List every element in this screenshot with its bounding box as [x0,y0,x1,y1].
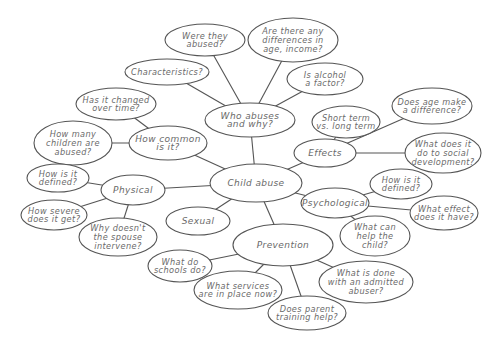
topic-node-social-development: What does itdo to socialdevelopment? [405,133,481,173]
node-label: abused? [186,39,223,49]
topic-node-psych-defined: How is itdefined? [370,169,432,199]
node-label: are in place now? [199,289,278,299]
topic-node-admitted-abuser: What is donewith an admittedabuser? [319,261,413,303]
node-label: Psychological [302,198,368,208]
node-label: a difference? [403,105,462,115]
topic-node-what-effect: What effectdoes it have? [410,196,478,230]
node-label: is it? [156,142,179,152]
node-label: defined? [39,177,78,187]
node-label: does it get? [28,214,81,224]
topic-node-sexual: Sexual [166,207,230,235]
topic-node-alcohol: Is alcohola factor? [287,63,363,95]
node-label: Characteristics? [131,67,203,77]
topic-node-parent-training: Does parenttraining help? [268,296,346,330]
topic-node-psychological: Psychological [301,188,369,218]
topic-node-age-difference: Does age makea difference? [392,88,472,124]
topic-node-spouse-intervene: Why doesn'tthe spouseintervene? [79,218,157,256]
topic-node-physical-defined: How is itdefined? [27,164,89,192]
node-label: Child abuse [227,178,284,188]
node-label: schools do? [154,265,206,275]
central-topic-child-abuse: Child abuse [210,164,302,202]
topic-node-services: What servicesare in place now? [194,271,282,309]
topic-node-help-child: What canhelp thechild? [340,216,410,256]
node-label: a factor? [305,78,345,88]
node-label: Physical [113,185,153,195]
node-label: over time? [92,103,140,113]
node-label: Prevention [257,240,309,250]
topic-node-physical: Physical [101,175,165,205]
topic-node-differences: Are there anydifferences inage, income? [248,18,338,62]
topic-node-who-abuses: Who abusesand why? [205,103,295,137]
node-label: child? [362,240,388,250]
topic-node-were-they-abused: Were theyabused? [165,24,245,56]
node-label: abuser? [348,286,383,296]
mind-map-diagram: Child abuseWho abusesand why?Were theyab… [0,0,498,347]
topic-nodes: Child abuseWho abusesand why?Were theyab… [21,18,481,330]
node-label: abused? [54,147,91,157]
topic-node-how-severe: How severedoes it get? [21,200,87,230]
node-label: does it have? [414,212,474,222]
node-label: development? [411,157,474,167]
node-label: Effects [308,148,342,158]
node-label: vs. long term [316,121,375,131]
topic-node-short-long-term: Short termvs. long term [312,106,380,138]
topic-node-changed-over-time: Has it changedover time? [76,88,156,120]
node-label: defined? [382,183,421,193]
topic-node-schools: What doschools do? [148,250,212,282]
node-label: and why? [227,119,273,129]
node-label: training help? [276,312,338,322]
topic-node-prevention: Prevention [233,224,333,266]
topic-node-how-many-children: How manychildren areabused? [34,121,112,165]
node-label: Sexual [182,216,215,226]
node-label: intervene? [94,241,142,251]
topic-node-effects: Effects [294,139,356,167]
topic-node-how-common: How commonis it? [129,126,207,160]
node-label: age, income? [263,44,323,54]
topic-node-characteristics: Characteristics? [125,59,209,85]
